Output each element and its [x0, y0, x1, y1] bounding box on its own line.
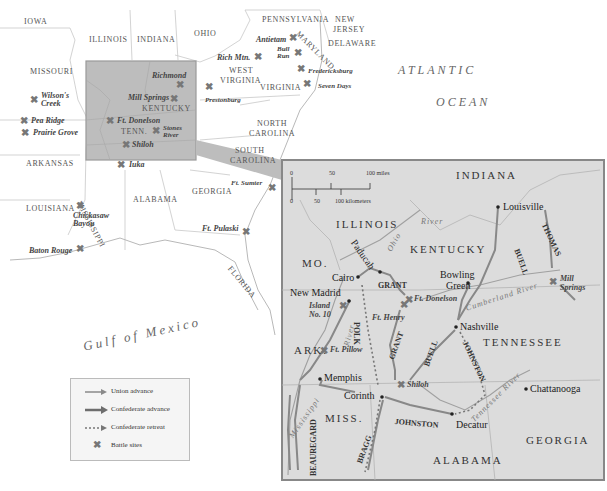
battle-label: Iuka	[129, 161, 145, 169]
state-label: INDIANA	[137, 36, 175, 44]
battle-x-icon: ✖	[106, 116, 114, 126]
battle-x-icon: ✖	[294, 48, 302, 58]
battle-x-icon: ✖	[400, 300, 408, 310]
confederate-advance-arrow-icon	[83, 405, 109, 415]
legend-item-union-advance: Union advance	[71, 385, 189, 399]
state-label: ALABAMA	[133, 196, 178, 204]
ocean-label: OCEAN	[436, 96, 490, 108]
state-label: SOUTH	[235, 147, 265, 155]
battle-x-icon: ✖	[176, 80, 184, 90]
battle-label: Prestonburg	[205, 97, 241, 104]
state-label: JERSEY	[333, 26, 365, 34]
inset-battle-label: Mill	[560, 275, 574, 283]
state-label: GEORGIA	[192, 188, 232, 196]
city-label: Memphis	[324, 373, 362, 383]
battle-label: Prairie Grove	[33, 129, 78, 137]
state-label: TENN.	[121, 128, 147, 136]
union-advance-arrow-icon	[83, 387, 109, 397]
river-label: River	[421, 218, 443, 226]
battle-x-icon: ✖	[170, 94, 178, 104]
city-label: Cairo	[332, 273, 354, 283]
legend-item-confederate-advance: Confederate advance	[71, 403, 189, 417]
battle-x-icon: ✖	[76, 201, 84, 211]
state-label: WEST	[229, 67, 253, 75]
battle-x-icon: ✖	[549, 277, 557, 287]
scale-tick: 50	[314, 198, 320, 204]
inset-state-label: GEORGIA	[526, 435, 590, 446]
inset-state-label: TENNESSEE	[483, 337, 563, 348]
city-label: Bowling	[440, 270, 474, 280]
inset-battle-label: Shiloh	[407, 381, 429, 389]
state-label: NORTH	[257, 120, 287, 128]
inset-battle-label: Springs	[560, 284, 585, 292]
battle-x-icon: ✖	[20, 116, 28, 126]
inset-state-label: KENTUCKY	[410, 244, 487, 255]
city-label: Corinth	[344, 391, 375, 401]
inset-state-label: ALABAMA	[433, 455, 503, 466]
battle-x-icon: ✖	[320, 346, 328, 356]
battle-x-icon: ✖	[297, 64, 305, 74]
battle-label: Ft. Donelson	[117, 117, 160, 125]
city-label: Nashville	[460, 322, 498, 332]
state-label: OHIO	[194, 30, 216, 38]
state-label: CAROLINA	[249, 130, 295, 138]
battle-label: Ft. Pulaski	[202, 225, 238, 233]
battle-x-icon: ✖	[289, 33, 297, 43]
city-label: Decatur	[456, 420, 488, 430]
battle-x-icon: ✖	[76, 244, 84, 254]
map-legend: Union advance Confederate advance Confed…	[70, 378, 190, 461]
state-label: NEW	[335, 16, 355, 24]
ocean-label: ATLANTIC	[398, 64, 476, 76]
battle-x-icon: ✖	[152, 126, 160, 136]
battle-x-icon: ✖	[122, 140, 130, 150]
state-label: MISSOURI	[30, 68, 73, 76]
inset-battle-label: Ft. Henry	[372, 314, 404, 322]
battle-label: Mill Springs	[128, 94, 169, 102]
battle-x-icon: ✖	[268, 183, 276, 193]
city-label: Louisville	[503, 202, 544, 212]
state-label: IOWA	[24, 18, 47, 26]
battle-x-icon: ✖	[21, 128, 29, 138]
battle-label: Stones River	[163, 125, 187, 139]
scale-tick: 0	[290, 170, 293, 176]
scale-tick: 100 kilometers	[335, 198, 371, 204]
battle-label: Rich Mtn.	[217, 54, 250, 62]
state-label: ARKANSAS	[26, 160, 74, 168]
battle-x-icon: ✖	[397, 380, 405, 390]
state-label: VIRGINIA	[260, 84, 301, 92]
battle-label: Seven Days	[318, 83, 351, 90]
legend-item-confederate-retreat: Confederate retreat	[71, 421, 189, 435]
scale-tick: 100 miles	[366, 170, 390, 176]
army-label: BEAUREGARD	[310, 419, 318, 476]
battle-x-icon: ✖	[303, 79, 311, 89]
state-label: LOUISIANA	[26, 205, 75, 213]
inset-battle-label: No. 10	[309, 311, 331, 319]
battle-label: Ft. Sumter	[231, 180, 262, 187]
battle-x-icon: ✖	[30, 95, 38, 105]
battle-label: Chickasaw Bayou	[73, 212, 109, 228]
inset-battle-label: Ft. Pillow	[330, 346, 362, 354]
battle-x-icon: ✖	[254, 52, 262, 62]
battle-label: Antietam	[256, 36, 286, 44]
city-label: Green	[446, 281, 470, 291]
battle-x-icon: ✖	[242, 227, 250, 237]
inset-battle-label: Ft. Donelson	[414, 295, 457, 303]
inset-state-label: MO.	[302, 258, 328, 269]
city-label: New Madrid	[290, 288, 341, 298]
scale-tick: 0	[290, 198, 293, 204]
state-label: VIRGINIA	[220, 77, 261, 85]
inset-state-label: ILLINOIS	[336, 219, 398, 230]
battle-label: Baton Rouge	[29, 247, 72, 255]
battle-label: Pea Ridge	[31, 117, 65, 125]
state-label: PENNSYLVANIA	[262, 16, 329, 24]
inset-map-frame	[282, 160, 604, 480]
state-label: DELAWARE	[328, 40, 376, 48]
battle-x-icon: ✖	[339, 301, 347, 311]
battle-label: Shiloh	[132, 141, 154, 149]
city-label: Chattanooga	[530, 384, 581, 394]
inset-state-label: MISS.	[325, 413, 363, 424]
inset-state-label: INDIANA	[456, 170, 517, 181]
state-label: CAROLINA	[230, 157, 276, 165]
confederate-retreat-arrow-icon	[83, 423, 109, 433]
state-label: KENTUCKY	[142, 105, 191, 113]
